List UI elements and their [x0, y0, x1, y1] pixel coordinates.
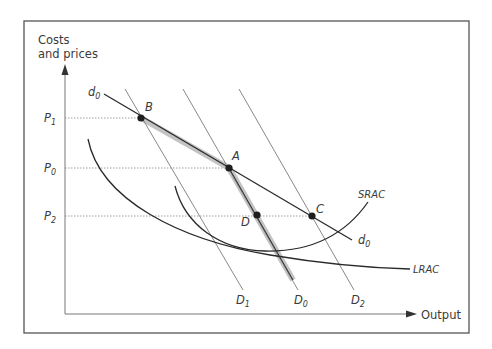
srac-label: SRAC: [358, 189, 385, 200]
y-axis-label-line2: and prices: [38, 47, 98, 61]
d2-label: D2: [351, 293, 365, 309]
demand-segment-a-d0: [229, 168, 293, 280]
d0-start-label: d0: [88, 85, 100, 101]
point-d: [253, 211, 260, 218]
x-axis-label: Output: [421, 308, 461, 322]
diagram-frame: [24, 21, 469, 333]
point-label-c: C: [316, 202, 324, 216]
point-b: [137, 114, 144, 121]
economics-diagram: Costs and prices Output P1 P0 P2 B A D C…: [0, 0, 492, 349]
y-axis-label-line1: Costs: [38, 33, 70, 47]
price-label-p0: P0: [44, 161, 56, 177]
x-axis-arrow-icon: [406, 311, 417, 318]
d0-label: D0: [294, 293, 308, 309]
point-label-a: A: [231, 149, 240, 163]
point-c: [308, 212, 315, 219]
point-label-d: D: [241, 215, 250, 229]
price-label-p2: P2: [44, 209, 56, 225]
y-axis-arrow-icon: [62, 64, 69, 75]
price-label-p1: P1: [44, 111, 56, 127]
demand-line-d2: [239, 89, 354, 290]
kinked-demand-highlight: [141, 118, 293, 280]
lrac-label: LRAC: [413, 264, 439, 275]
d1-label: D1: [236, 293, 250, 309]
d0-end-label: d0: [358, 233, 370, 249]
point-label-b: B: [145, 100, 153, 114]
demand-line-d0: [183, 89, 298, 290]
point-a: [225, 164, 232, 171]
